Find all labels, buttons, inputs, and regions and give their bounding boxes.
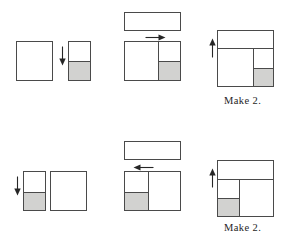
bottom-step2-joined-unit [124, 171, 181, 211]
bottom-step3-up-arrow-icon [208, 168, 217, 188]
bottom-step2-vertical-seam [148, 172, 149, 210]
top-step2-left-square-plain [125, 42, 158, 80]
top-step1-large-square [16, 41, 53, 81]
top-step2-long-rectangle [124, 12, 181, 31]
diagram-canvas: Make 2. [0, 0, 287, 239]
top-step3-top-band-plain [218, 31, 273, 48]
bottom-step2-long-rectangle [124, 141, 181, 160]
top-step3-up-arrow-icon [208, 38, 217, 58]
top-step3-body-right-top-plain [253, 48, 273, 68]
top-step3-body-left-plain [218, 48, 253, 86]
top-step2-horizontal-seam [158, 61, 180, 62]
top-step1-down-arrow-icon [58, 46, 67, 66]
bottom-step3-finished-block [217, 160, 274, 217]
bottom-step3-body-left-bottom-shaded [218, 198, 239, 216]
bottom-step2-left-bottom-shaded [125, 192, 148, 210]
bottom-step2-right-square-plain [148, 172, 180, 210]
bottom-step1-two-patch-strip [23, 171, 46, 211]
top-step3-finished-block [217, 30, 274, 87]
bottom-step1-large-square [50, 171, 87, 211]
top-step2-right-top-plain [158, 42, 180, 61]
top-row-caption: Make 2. [224, 95, 261, 106]
bottom-step3-vertical-seam [239, 179, 240, 216]
bottom-step1-strip-bottom-shaded [24, 192, 45, 210]
top-step2-right-bottom-shaded [158, 61, 180, 80]
top-step1-strip-top-plain [69, 42, 90, 61]
bottom-step3-left-seam [218, 198, 239, 199]
top-step1-strip-bottom-shaded [69, 61, 90, 80]
top-step1-strip-seam [69, 61, 90, 62]
bottom-step2-horizontal-seam [125, 192, 148, 193]
bottom-step3-body-right-plain [239, 179, 273, 216]
bottom-step3-band-seam [218, 179, 273, 180]
bottom-row-caption: Make 2. [224, 222, 261, 233]
top-step3-band-seam [218, 48, 273, 49]
top-step2-joined-unit [124, 41, 181, 81]
bottom-step2-left-top-plain [125, 172, 148, 192]
top-step3-vertical-seam [253, 48, 254, 86]
bottom-step3-top-band-plain [218, 161, 273, 179]
bottom-step1-down-arrow-icon [13, 176, 22, 196]
bottom-step1-strip-seam [24, 192, 45, 193]
top-step1-two-patch-strip [68, 41, 91, 81]
top-step3-right-seam [253, 68, 273, 69]
bottom-step1-strip-top-plain [24, 172, 45, 192]
bottom-step3-body-left-top-plain [218, 179, 239, 198]
top-step3-body-right-bottom-shaded [253, 68, 273, 86]
